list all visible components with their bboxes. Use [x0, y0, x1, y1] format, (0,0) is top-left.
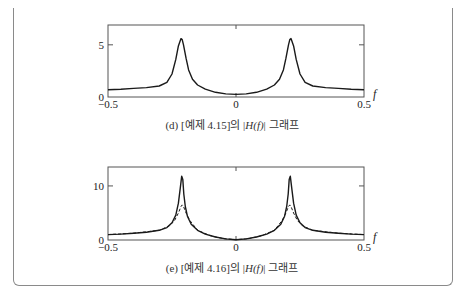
caption-e-suffix: | 그래프	[263, 262, 298, 274]
caption-d-func: H(f)	[245, 119, 263, 131]
x-tick-label: −0.5	[98, 98, 118, 110]
plot-frame	[108, 167, 364, 240]
caption-d-suffix: | 그래프	[264, 119, 299, 131]
caption-d: (d) [예제 4.15]의 |H(f)| 그래프	[0, 116, 464, 132]
series-solid-line	[108, 39, 364, 95]
caption-d-prefix: (d) [예제 4.15]의 |	[165, 119, 245, 131]
x-tick-label: 0	[233, 98, 239, 110]
x-tick-label: 0.5	[357, 241, 371, 253]
plot-e: 010−0.500.5f	[93, 167, 378, 253]
caption-e: (e) [예제 4.16]의 |H(f)| 그래프	[0, 259, 464, 275]
series-solid-line	[108, 176, 364, 240]
x-tick-label: −0.5	[98, 241, 118, 253]
y-tick-label: 5	[99, 39, 105, 51]
x-axis-label: f	[373, 87, 378, 101]
x-tick-label: 0	[233, 241, 239, 253]
x-axis-label: f	[373, 230, 378, 244]
series-dashed-line	[108, 205, 364, 240]
caption-e-prefix: (e) [예제 4.16]의 |	[166, 262, 245, 274]
x-tick-label: 0.5	[357, 98, 371, 110]
plot-d: 05−0.500.5f	[98, 25, 378, 110]
y-tick-label: 10	[93, 180, 105, 192]
plot-frame	[108, 25, 364, 97]
figure-canvas: 05−0.500.5f 010−0.500.5f	[0, 0, 464, 297]
caption-e-func: H(f)	[245, 262, 263, 274]
